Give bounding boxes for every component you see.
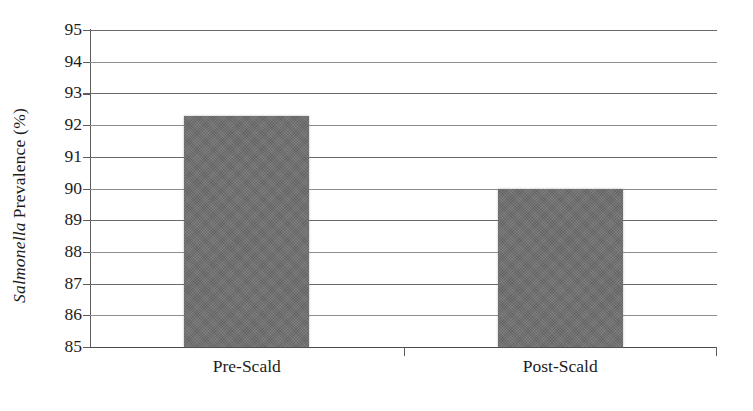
x-axis-tick-label: Post-Scald [523, 358, 598, 376]
y-axis-tick-label: 93 [65, 85, 83, 103]
y-axis-title-rest: Prevalence (%) [9, 108, 30, 218]
y-axis-tick-label: 88 [65, 243, 83, 261]
x-axis-end-tick [716, 347, 717, 356]
y-axis-tick-mark [83, 125, 90, 126]
y-axis-tick-mark [83, 252, 90, 253]
y-axis-tick-label: 87 [65, 275, 83, 293]
y-axis-tick-mark [83, 62, 90, 63]
bars-layer [90, 30, 717, 347]
y-axis-tick-mark [83, 284, 90, 285]
y-axis-tick-mark [83, 347, 90, 348]
bar [184, 116, 309, 347]
x-axis-tick-mark [404, 347, 405, 356]
y-axis-tick-label: 91 [65, 148, 83, 166]
x-axis-tick-label: Pre-Scald [213, 358, 281, 376]
y-axis-title: Salmonella Prevalence (%) [0, 0, 38, 411]
y-axis-tick-label: 92 [65, 116, 83, 134]
y-axis-tick-labels: 9594939291908988878685 [42, 0, 82, 411]
y-axis-tick-mark [83, 93, 90, 94]
y-axis-tick-mark [83, 189, 90, 190]
y-axis-tick-mark [83, 30, 90, 31]
plot-area [90, 30, 717, 347]
y-axis-tick-mark [83, 315, 90, 316]
y-axis-tick-label: 94 [65, 53, 83, 71]
y-axis-tick-label: 90 [65, 180, 83, 198]
y-axis-tick-label: 89 [65, 211, 83, 229]
y-axis-tick-label: 85 [65, 338, 83, 356]
bar-chart: Salmonella Prevalence (%) 95949392919089… [0, 0, 753, 411]
bar [498, 189, 623, 348]
y-axis-tick-mark [83, 157, 90, 158]
y-axis-title-italic: Salmonella [9, 218, 30, 303]
x-axis-tick-labels: Pre-ScaldPost-Scald [90, 358, 717, 388]
y-axis-tick-label: 95 [65, 21, 83, 39]
y-axis-tick-label: 86 [65, 307, 83, 325]
y-axis-tick-mark [83, 220, 90, 221]
